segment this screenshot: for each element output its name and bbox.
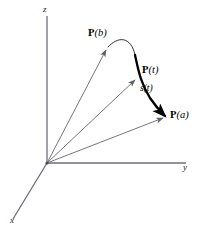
vector-curve-figure: z y x P(b) P(t) P(a) s(t) — [0, 0, 210, 235]
vector-to-point-b — [47, 50, 106, 163]
x-axis-label: x — [10, 216, 14, 225]
curve-thin-segment — [108, 40, 135, 55]
y-axis-label: y — [183, 163, 187, 172]
vector-to-point-t — [47, 80, 135, 163]
arc-length-label: s(t) — [140, 84, 153, 94]
point-t-label: P(t) — [142, 65, 158, 76]
point-b-label: P(b) — [88, 28, 107, 39]
space-curve-group — [108, 40, 165, 116]
point-a-argument: (a) — [177, 109, 189, 120]
x-axis-line — [13, 163, 47, 219]
origin-point — [45, 161, 48, 164]
axes-group — [13, 16, 186, 219]
point-t-argument: (t) — [149, 64, 159, 75]
point-b-argument: (b) — [95, 27, 107, 38]
vector-to-point-a — [47, 118, 163, 163]
z-axis-label: z — [43, 5, 47, 14]
point-a-label: P(a) — [170, 110, 189, 121]
